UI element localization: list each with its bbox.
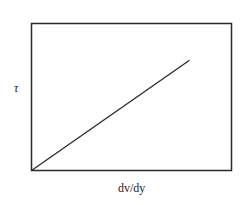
x-axis-label: dv/dy: [118, 182, 145, 194]
axes-frame: [32, 24, 232, 171]
data-line: [32, 60, 190, 170]
chart-figure: τ dv/dy: [0, 0, 247, 205]
plot-area: [0, 0, 247, 205]
y-axis-label: τ: [14, 82, 18, 94]
